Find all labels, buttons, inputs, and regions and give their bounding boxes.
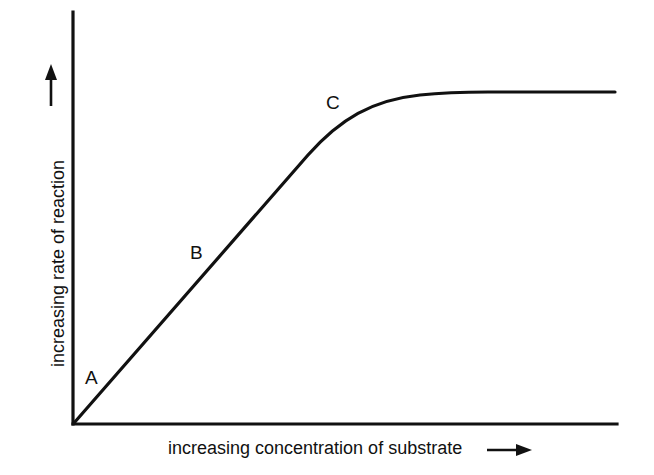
reaction-rate-curve — [74, 92, 615, 423]
curve-annotation-c: C — [326, 93, 340, 112]
plot-area — [0, 0, 654, 475]
y-axis-arrow-icon — [45, 64, 57, 106]
enzyme-kinetics-figure: increasing rate of reaction increasing c… — [0, 0, 654, 475]
x-axis-arrow-icon — [487, 444, 532, 456]
curve-annotation-b: B — [190, 243, 203, 262]
curve-annotation-a: A — [85, 368, 98, 387]
y-axis-label: increasing rate of reaction — [48, 124, 69, 404]
x-axis-label: increasing concentration of substrate — [168, 438, 462, 459]
